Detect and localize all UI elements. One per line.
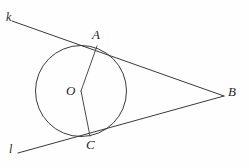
- point-label-a: A: [92, 28, 100, 41]
- geometry-canvas: [0, 0, 249, 168]
- geometry-figure: k l A B C O: [0, 0, 249, 168]
- tangent-line-k: [12, 21, 224, 96]
- point-label-c: C: [86, 138, 95, 151]
- line-label-k: k: [6, 11, 11, 23]
- tangent-line-l: [18, 96, 224, 153]
- radius-oa-segment: [81, 46, 97, 91]
- point-label-b: B: [228, 85, 236, 98]
- point-label-o: O: [66, 84, 75, 97]
- line-label-l: l: [9, 143, 12, 155]
- radius-oc-segment: [81, 91, 90, 136]
